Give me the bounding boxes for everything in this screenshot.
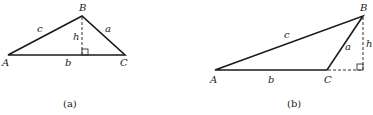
- figure-a: B A C c a b h (a): [1, 2, 128, 109]
- triangle-diagrams: B A C c a b h (a) B A C c a b h (b): [0, 0, 373, 115]
- triangle-b: [215, 16, 363, 70]
- vertex-label-C-a: C: [120, 57, 128, 68]
- vertex-label-A-b: A: [209, 74, 217, 85]
- right-angle-marker-a: [82, 49, 88, 55]
- vertex-label-B-b: B: [359, 2, 367, 13]
- caption-b: (b): [287, 98, 301, 109]
- side-label-b-b: b: [268, 74, 274, 85]
- altitude-label-h-b: h: [366, 38, 372, 49]
- right-angle-marker-b: [357, 64, 363, 70]
- side-label-b-a: b: [65, 57, 71, 68]
- vertex-label-B-a: B: [78, 2, 86, 13]
- side-label-c-b: c: [284, 29, 290, 40]
- side-label-c-a: c: [37, 23, 43, 34]
- vertex-label-A-a: A: [1, 57, 9, 68]
- caption-a: (a): [63, 98, 77, 109]
- vertex-label-C-b: C: [324, 74, 332, 85]
- altitude-label-h-a: h: [73, 31, 79, 42]
- side-label-a-b: a: [345, 41, 351, 52]
- triangle-a: [8, 16, 125, 55]
- figure-b: B A C c a b h (b): [209, 2, 372, 109]
- side-label-a-a: a: [105, 23, 111, 34]
